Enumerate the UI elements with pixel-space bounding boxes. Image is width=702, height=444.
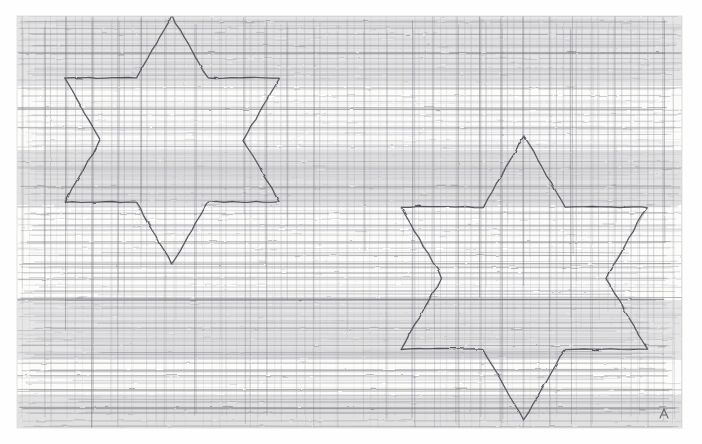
artwork-canvas: Crosshatch Plaid with Two Hexagrams grap… <box>0 0 702 444</box>
pencil-drawing <box>0 0 702 444</box>
